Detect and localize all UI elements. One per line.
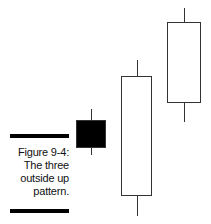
- candle-2-body-white: [121, 76, 152, 196]
- figure-label: Figure 9-4:: [0, 146, 69, 159]
- candle-lower-wick: [137, 196, 138, 216]
- candle-lower-wick: [184, 103, 185, 122]
- candle-lower-wick: [91, 148, 92, 155]
- caption-bottom-rule: [10, 209, 69, 213]
- caption-line-3: pattern.: [0, 185, 69, 198]
- caption-line-1: The three: [0, 159, 69, 172]
- candle-upper-wick: [137, 60, 138, 76]
- candle-1-body-black: [76, 120, 106, 148]
- candle-upper-wick: [184, 8, 185, 22]
- candle-3-body-white: [167, 22, 201, 103]
- caption-line-2: outside up: [0, 172, 69, 185]
- candle-upper-wick: [91, 109, 92, 120]
- caption-top-rule: [10, 134, 69, 138]
